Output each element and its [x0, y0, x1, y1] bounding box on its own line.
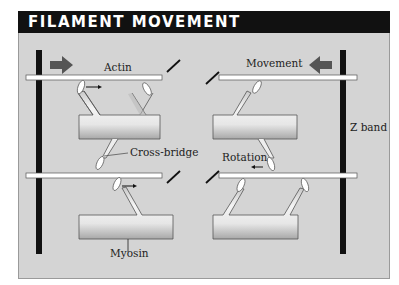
myosin-bottom-left: [79, 187, 173, 252]
label-myosin: Myosin: [110, 247, 149, 259]
label-movement: Movement: [246, 57, 303, 69]
cross-bridge-head: [94, 155, 105, 170]
label-z-band: Z band: [350, 121, 387, 133]
cross-bridge-head: [251, 79, 263, 94]
arrow-right-icon: [50, 56, 73, 74]
arrow-left-icon: [309, 56, 332, 74]
actin-top: [26, 60, 357, 84]
actin-bottom: [26, 171, 357, 183]
cross-bridge-head: [235, 177, 246, 192]
cross-bridge-head: [141, 81, 153, 96]
myosin-bottom-right: [213, 188, 304, 239]
label-cross-bridge: Cross-bridge: [130, 146, 198, 158]
label-rotation: Rotation: [222, 151, 268, 163]
cross-bridge-head: [111, 176, 122, 191]
filament-diagram: Actin Movement Z band Cross-bridge Rotat…: [0, 0, 399, 285]
myosin-top-left: [78, 91, 160, 139]
z-band-left: [36, 50, 42, 254]
z-band-right: [340, 50, 346, 254]
label-actin: Actin: [103, 61, 132, 73]
myosin-top-right: [213, 91, 297, 139]
